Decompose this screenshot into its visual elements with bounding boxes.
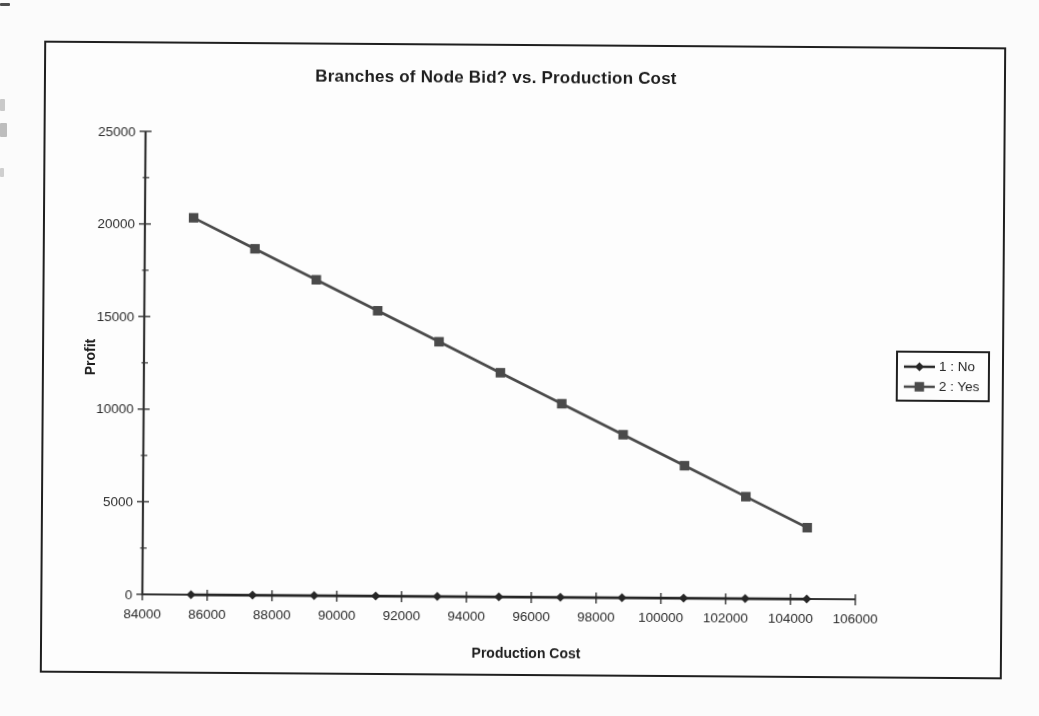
y-tick-label: 5000 xyxy=(103,494,133,509)
x-tick-label: 98000 xyxy=(577,609,615,624)
diamond-marker-icon xyxy=(310,591,319,600)
y-tick-label: 15000 xyxy=(97,309,135,324)
diamond-marker-icon xyxy=(915,362,924,371)
square-marker-icon xyxy=(802,523,812,533)
diamond-marker-icon xyxy=(556,593,565,602)
x-tick-label: 96000 xyxy=(512,609,550,624)
diamond-marker-icon xyxy=(679,594,688,603)
scan-artifact-mark xyxy=(0,168,4,177)
axis-line xyxy=(142,131,858,599)
legend-item: 1 : No xyxy=(903,357,980,377)
scan-artifact-mark xyxy=(0,3,10,6)
x-tick-label: 86000 xyxy=(188,607,226,622)
square-marker-icon xyxy=(250,244,260,254)
scanned-page: Branches of Node Bid? vs. Production Cos… xyxy=(0,0,1039,716)
y-tick-label: 25000 xyxy=(98,124,136,139)
diamond-legend-key-icon xyxy=(903,359,936,373)
diamond-marker-icon xyxy=(617,593,626,602)
x-tick-label: 100000 xyxy=(638,610,683,625)
scan-artifact-mark xyxy=(0,99,5,111)
x-tick-label: 88000 xyxy=(253,607,291,622)
diamond-marker-icon xyxy=(741,594,750,603)
diamond-marker-icon xyxy=(371,591,380,600)
series-diamond xyxy=(186,590,811,603)
square-marker-icon xyxy=(680,461,690,471)
y-tick-label: 20000 xyxy=(97,216,135,231)
x-tick-label: 84000 xyxy=(123,606,161,621)
legend-item-label: 2 : Yes xyxy=(939,379,980,394)
plot-area: 8400086000880009000092000940009600098000… xyxy=(42,43,1003,677)
square-marker-icon xyxy=(557,399,567,409)
legend-box: 1 : No2 : Yes xyxy=(896,351,990,403)
legend-item-label: 1 : No xyxy=(939,359,975,374)
square-marker-icon xyxy=(189,213,199,223)
x-tick-label: 106000 xyxy=(833,611,878,626)
square-marker-icon xyxy=(496,368,506,378)
square-marker-icon xyxy=(373,306,383,316)
legend-item: 2 : Yes xyxy=(903,377,980,397)
square-marker-icon xyxy=(434,337,444,347)
y-tick-label: 0 xyxy=(125,587,133,602)
square-marker-icon xyxy=(915,381,925,391)
y-axis-title: Profit xyxy=(82,315,99,399)
diamond-marker-icon xyxy=(494,592,503,601)
square-marker-icon xyxy=(312,275,322,285)
chart-frame: Branches of Node Bid? vs. Production Cos… xyxy=(40,41,1006,680)
series-square xyxy=(187,213,814,532)
scan-artifact-mark xyxy=(0,123,7,137)
diamond-marker-icon xyxy=(433,592,442,601)
x-tick-label: 90000 xyxy=(318,608,356,623)
y-tick-label: 10000 xyxy=(96,401,134,416)
diamond-marker-icon xyxy=(802,594,811,603)
diamond-marker-icon xyxy=(248,591,257,600)
x-tick-label: 92000 xyxy=(383,608,421,623)
diamond-marker-icon xyxy=(186,590,195,599)
square-marker-icon xyxy=(741,492,751,502)
x-tick-label: 102000 xyxy=(703,610,748,625)
square-marker-icon xyxy=(618,430,628,440)
square-legend-key-icon xyxy=(903,379,936,393)
x-tick-label: 94000 xyxy=(447,608,485,623)
axes xyxy=(142,131,858,599)
x-tick-label: 104000 xyxy=(768,611,813,626)
